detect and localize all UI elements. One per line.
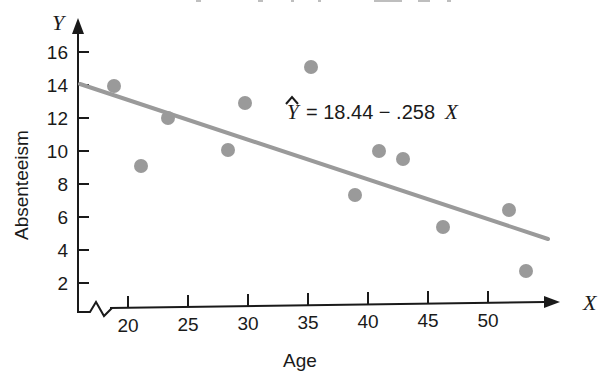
chart-svg: 16 14 12 10 8 6 4 2 Y Absenteeism [0, 0, 615, 380]
y-tick-label: 16 [47, 42, 68, 63]
y-tick-label: 14 [47, 75, 69, 96]
y-tick-label: 12 [47, 108, 68, 129]
data-point [304, 60, 318, 74]
y-tick-label: 2 [57, 273, 68, 294]
scatter-chart: 16 14 12 10 8 6 4 2 Y Absenteeism [0, 0, 615, 380]
equation-body: = 18.44 − .258 [306, 101, 435, 123]
x-axis-letter: X [582, 290, 598, 315]
x-tick-label: 20 [117, 315, 138, 336]
y-tick-label: 8 [57, 174, 68, 195]
data-point [348, 188, 362, 202]
data-point [238, 96, 252, 110]
data-point [519, 264, 533, 278]
data-point [372, 144, 386, 158]
x-tick-label: 50 [477, 310, 498, 331]
data-point [502, 203, 516, 217]
y-tick-label: 10 [47, 141, 68, 162]
data-point [221, 143, 235, 157]
data-point [396, 152, 410, 166]
regression-equation-annotation: Y = 18.44 − .258 X [286, 97, 459, 124]
x-tick-label: 35 [297, 312, 318, 333]
equation-x-symbol: X [444, 100, 459, 124]
x-axis-title: Age [283, 350, 317, 371]
y-axis-title: Absenteeism [11, 130, 32, 240]
y-tick-label: 4 [57, 240, 68, 261]
x-tick-label: 45 [417, 310, 438, 331]
data-point [436, 220, 450, 234]
x-tick-label: 25 [177, 314, 198, 335]
data-point [107, 79, 121, 93]
data-point [161, 111, 175, 125]
y-tick-label: 6 [57, 207, 68, 228]
x-tick-label: 40 [357, 311, 378, 332]
data-point [134, 159, 148, 173]
x-tick-label: 30 [237, 313, 258, 334]
